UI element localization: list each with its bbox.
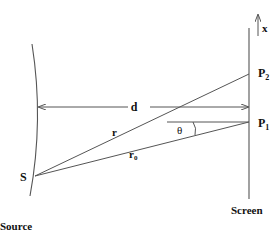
source-wavefront-curve [30,44,38,196]
x-axis-label: x [262,22,268,34]
ray-r0 [35,122,249,176]
p2-label: P2 [258,66,269,82]
source-caption: Source [0,220,32,232]
ray-r [35,74,249,176]
source-point-label: S [20,170,27,184]
angle-theta-label: θ [177,124,182,136]
diagram-canvas: x P2 P1 d r r0 θ S Source Screen [0,0,280,234]
p1-label: P1 [258,116,269,132]
diagram-svg: x P2 P1 d r r0 θ S Source Screen [0,0,280,234]
angle-arc [193,122,196,135]
distance-label: d [131,100,138,114]
path-r-label: r [112,126,117,138]
screen-caption: Screen [231,204,263,216]
